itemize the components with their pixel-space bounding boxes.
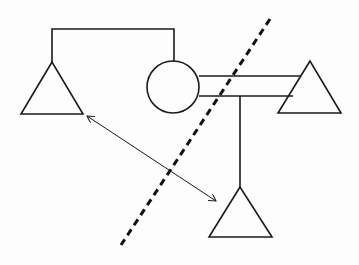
bottom-triangle-node [209,187,272,237]
dashed-divider-line [121,19,270,245]
center-circle-node [147,61,199,113]
diagram-canvas [0,0,359,265]
left-triangle-node [21,62,83,114]
genogram-diagram [0,0,359,265]
right-triangle-node [278,61,341,113]
top-bracket-line [52,29,174,62]
